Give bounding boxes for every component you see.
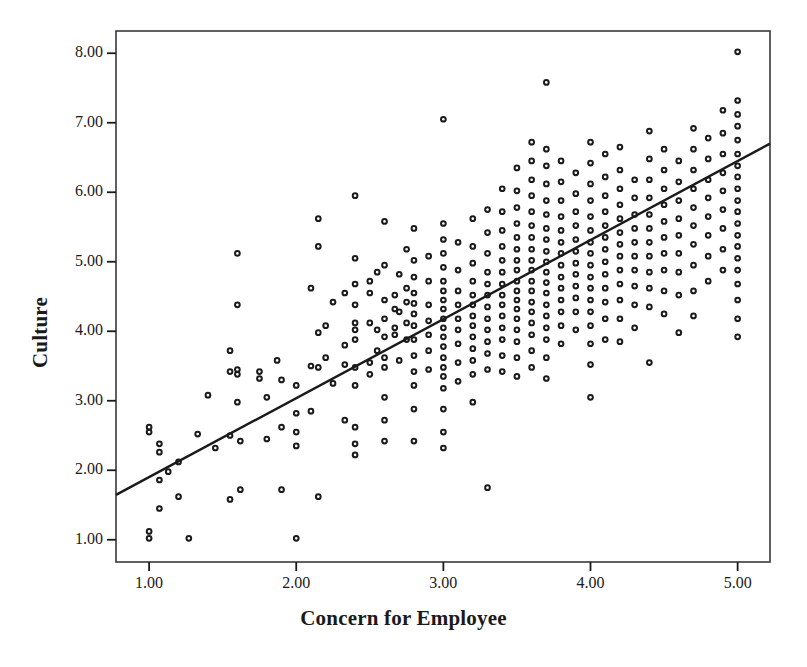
x-tick-label: 1.00 bbox=[119, 574, 179, 592]
y-tick-label: 3.00 bbox=[45, 391, 103, 409]
x-axis-title: Concern for Employee bbox=[0, 606, 807, 631]
y-axis-title: Culture bbox=[28, 297, 53, 368]
x-tick-label: 3.00 bbox=[413, 574, 473, 592]
y-tick-label: 5.00 bbox=[45, 252, 103, 270]
plot-canvas bbox=[0, 0, 807, 667]
plot-frame bbox=[116, 31, 770, 562]
y-tick-label: 2.00 bbox=[45, 460, 103, 478]
y-tick-label: 6.00 bbox=[45, 182, 103, 200]
x-tick-label: 2.00 bbox=[266, 574, 326, 592]
y-tick-label: 4.00 bbox=[45, 321, 103, 339]
y-tick-label: 8.00 bbox=[45, 43, 103, 61]
y-tick-label: 7.00 bbox=[45, 113, 103, 131]
x-tick-label: 4.00 bbox=[560, 574, 620, 592]
y-tick-label: 1.00 bbox=[45, 530, 103, 548]
scatter-plot-figure: 1.002.003.004.005.006.007.008.00 1.002.0… bbox=[0, 0, 807, 667]
x-tick-label: 5.00 bbox=[708, 574, 768, 592]
